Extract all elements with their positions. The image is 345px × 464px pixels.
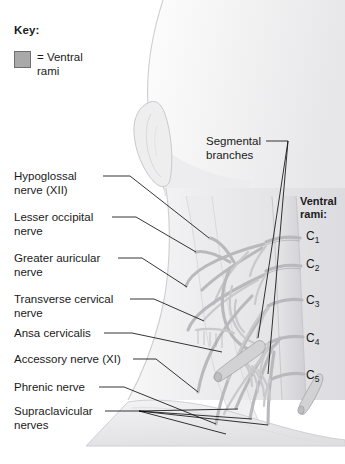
root-letter: C [306, 257, 315, 271]
ear-auricle [134, 101, 172, 186]
root-letter: C [306, 331, 315, 345]
nerve-network [186, 237, 323, 424]
label-phrenic-nerve: Phrenic nerve [14, 381, 85, 395]
head-silhouette [148, 0, 345, 196]
plexus-loops [186, 238, 323, 424]
label-lesser-occipital-nerve: Lesser occipital nerve [14, 211, 93, 238]
ventral-rami-swatch [14, 51, 31, 68]
root-index: 4 [315, 337, 320, 347]
ventral-rami-label-c4: C4 [306, 331, 319, 347]
sternocleidomastoid-muscle [186, 196, 258, 420]
ventral-rami-roots [266, 237, 304, 380]
label-accessory-nerve: Accessory nerve (XI) [14, 353, 121, 367]
root-index: 5 [315, 374, 320, 384]
root-letter: C [306, 368, 315, 382]
root-letter: C [306, 293, 315, 307]
label-greater-auricular-nerve: Greater auricular nerve [14, 252, 100, 279]
ventral-rami-heading: Ventral rami: [300, 195, 337, 221]
label-segmental-branches: Segmental branches [206, 135, 261, 162]
ventral-rami-label-c3: C3 [306, 293, 319, 309]
segmental-branches [250, 246, 270, 406]
label-supraclavicular-nerves: Supraclavicular nerves [14, 405, 93, 432]
leader-lines [99, 141, 288, 434]
ventral-rami-label-c1: C1 [306, 229, 319, 245]
root-index: 3 [315, 299, 320, 309]
ventral-rami-label-c2: C2 [306, 257, 319, 273]
shoulder-clavicle [86, 400, 345, 446]
key-entry-label: = Ventral rami [37, 50, 83, 78]
vertebral-column [272, 196, 306, 400]
label-transverse-cervical-nerve: Transverse cervical nerve [14, 293, 113, 320]
root-index: 2 [315, 263, 320, 273]
fine-branches [196, 329, 270, 400]
label-ansa-cervicalis: Ansa cervicalis [14, 327, 91, 341]
ventral-rami-label-c5: C5 [306, 368, 319, 384]
key-entry: = Ventral rami [14, 50, 83, 78]
label-hypoglossal-nerve: Hypoglossal nerve (XII) [14, 170, 77, 197]
root-letter: C [306, 229, 315, 243]
key-title: Key: [14, 24, 39, 36]
figure-canvas: Key: = Ventral rami Segmental branches V… [0, 0, 345, 464]
cut-nerve-stump [214, 341, 265, 382]
root-index: 1 [315, 235, 320, 245]
